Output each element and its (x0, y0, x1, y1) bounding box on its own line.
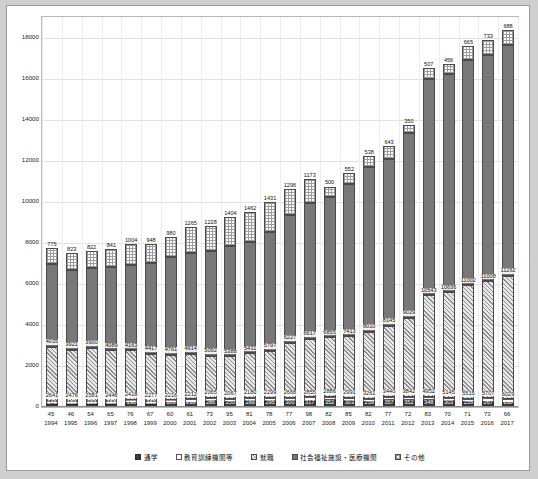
bar-value-label: 1004 (125, 238, 137, 244)
bar-stack[interactable]: 129662272668300 (284, 189, 296, 407)
x-axis-year-label: 1998 (120, 419, 140, 428)
bar-stack[interactable]: 50068552886352 (324, 187, 336, 407)
bar-stack[interactable]: 35090293842352 (403, 125, 415, 407)
bar-stack[interactable]: 733110085707267 (482, 40, 494, 407)
x-axis-count-label: 81 (239, 410, 259, 419)
bar-segment-fukushi: 5388 (224, 246, 236, 357)
bar-value-label: 643 (384, 140, 393, 146)
bar-segment-sonota: 1462 (244, 212, 256, 242)
legend-label: 通学 (144, 452, 158, 462)
x-axis-count-label: 78 (259, 410, 279, 419)
x-axis-count-label: 83 (418, 410, 438, 419)
x-axis-year-label: 2007 (299, 419, 319, 428)
bar-stack[interactable]: 456106365145303 (443, 64, 455, 407)
bar-stack[interactable]: 126549142212218 (185, 227, 197, 407)
x-axis-count-label: 46 (61, 410, 81, 419)
legend-item-shushoku[interactable]: 就職 (251, 452, 274, 462)
x-axis-tick-group: 651997 (101, 410, 121, 428)
y-axis-tick-label: 10000 (9, 198, 39, 204)
bar-segment-shushoku: 2641 (46, 347, 58, 401)
bar-value-label: 2855 (303, 390, 316, 396)
x-axis-count-label: 61 (180, 410, 200, 419)
bar-stack[interactable]: 100441632418190 (125, 244, 137, 407)
legend-item-kyoiku[interactable]: 教育訓練機関等 (176, 452, 234, 462)
y-axis-tick-label: 0 (9, 403, 39, 409)
x-axis-tick-group: 602000 (160, 410, 180, 428)
bar-stack[interactable]: 77540352641146 (46, 248, 58, 407)
x-axis-tick-group: 852009 (339, 410, 359, 428)
bar-value-label: 507 (424, 62, 433, 68)
bar-segment-shushoku: 2216 (165, 355, 177, 400)
bar-value-label: 2886 (323, 389, 336, 395)
chart-legend: 通学教育訓練機関等就職社会福祉施設・医療機関その他 (41, 449, 519, 465)
bar-stack[interactable]: 143157972299295 (264, 202, 276, 407)
bar-segment-sonota: 1173 (304, 179, 316, 203)
x-axis-year-label: 2008 (319, 419, 339, 428)
bar-stack[interactable]: 122850922065286 (205, 226, 217, 407)
bar-stack[interactable]: 82239002581163 (86, 251, 98, 407)
bar-segment-shushoku: 2886 (324, 337, 336, 396)
bar-stack[interactable]: 507105434952348 (423, 68, 435, 407)
bar-value-label: 8145 (382, 318, 395, 324)
bar-stack[interactable]: 55274132991303 (343, 173, 355, 407)
bar-segment-fukushi: 4761 (165, 257, 177, 355)
bar-stack[interactable]: 665110025515256 (462, 46, 474, 407)
x-axis-count-label: 67 (140, 410, 160, 419)
x-axis-year-label: 1996 (81, 419, 101, 428)
bar-segment-shushoku: 3842 (403, 318, 415, 397)
bar-value-label: 3440 (382, 389, 395, 395)
bar-value-label: 2476 (65, 393, 78, 399)
legend-swatch-icon (176, 454, 182, 460)
bar-stack[interactable]: 84140892446158 (105, 249, 117, 407)
x-axis-count-label: 45 (41, 410, 61, 419)
bar-stack[interactable]: 94844172277163 (145, 244, 157, 407)
legend-item-fukushi[interactable]: 社会福祉施設・医療機関 (292, 452, 378, 462)
bar-segment-fukushi: 9029 (403, 133, 415, 318)
bar-segment-fukushi: 4914 (185, 253, 197, 354)
chart-frame: 0200040006000800010000120001400016000180… (6, 5, 530, 471)
x-axis-year-label: 2001 (180, 419, 200, 428)
bar-stack[interactable]: 146254312180289 (244, 212, 256, 407)
bar-value-label: 1296 (284, 183, 296, 189)
x-axis-count-label: 82 (358, 410, 378, 419)
legend-item-sonota[interactable]: その他 (395, 452, 425, 462)
bar-value-label: 4914 (184, 346, 197, 352)
bar-value-label: 11262 (500, 268, 516, 274)
legend-swatch-icon (251, 454, 257, 460)
bar-value-label: 6617 (303, 331, 316, 337)
bar-segment-fukushi: 4035 (46, 264, 58, 347)
bar-value-label: 1431 (264, 196, 276, 202)
legend-label: その他 (404, 452, 425, 462)
bar-value-label: 2065 (204, 390, 217, 396)
bar-stack[interactable]: 117366172855317 (304, 179, 316, 407)
x-axis-count-label: 77 (279, 410, 299, 419)
legend-item-tsugaku[interactable]: 通学 (135, 452, 158, 462)
bar-value-label: 5515 (462, 391, 475, 397)
bar-segment-shushoku: 2991 (343, 336, 355, 397)
bar-segment-sonota: 538 (363, 156, 375, 167)
y-axis-tick-label: 6000 (9, 280, 39, 286)
bar-stack[interactable]: 64381453440357 (383, 146, 395, 407)
x-axis-count-label: 65 (101, 410, 121, 419)
plot-area: 7754035264114682339212476150822390025811… (41, 16, 519, 408)
bar-value-label: 5092 (204, 348, 217, 354)
x-axis-count-label: 73 (200, 410, 220, 419)
bar-value-label: 4417 (144, 346, 157, 352)
bar-value-label: 4952 (422, 389, 435, 395)
bar-stack[interactable]: 98047612216186 (165, 237, 177, 407)
bar-value-label: 948 (146, 238, 155, 244)
bar-stack[interactable]: 53880103261259 (363, 156, 375, 407)
x-axis-tick-group: 712015 (458, 410, 478, 428)
bar-segment-fukushi: 4089 (105, 267, 117, 351)
bar-value-label: 5388 (224, 349, 237, 355)
y-axis-tick-label: 16000 (9, 75, 39, 81)
bar-stack[interactable]: 688112626029218 (502, 30, 514, 407)
bar-segment-fukushi: 4163 (125, 265, 137, 350)
bar-stack[interactable]: 82339212476150 (66, 253, 78, 407)
bar-value-label: 5145 (442, 390, 455, 396)
bar-value-label: 2446 (105, 393, 118, 399)
bar-value-label: 775 (47, 242, 56, 248)
bar-value-label: 4163 (125, 343, 138, 349)
bar-stack[interactable]: 140453882067250 (224, 217, 236, 407)
x-axis-count-label: 95 (220, 410, 240, 419)
